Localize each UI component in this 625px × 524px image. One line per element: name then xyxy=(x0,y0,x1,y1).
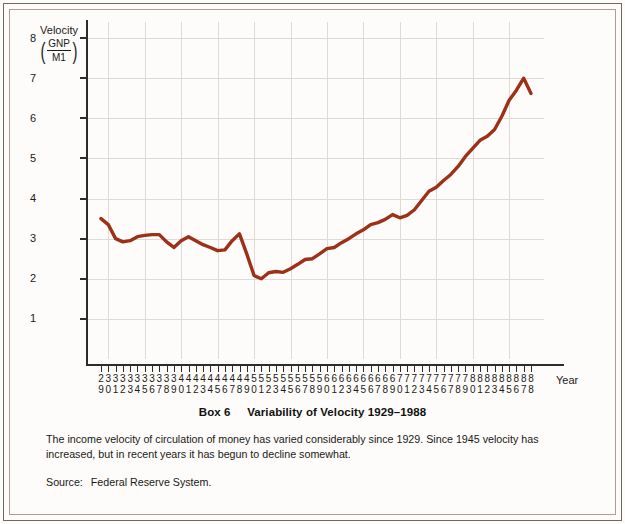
box-title-text: Variability of Velocity 1929–1988 xyxy=(247,406,426,418)
x-tick-mark-78 xyxy=(458,366,459,372)
plot-area xyxy=(88,22,544,359)
x-tick-mark-44 xyxy=(210,366,211,372)
x-tick-mark-85 xyxy=(509,366,510,372)
x-tick-mark-43 xyxy=(203,366,204,372)
y-tick-mark-8 xyxy=(80,37,87,39)
caption-block: Box 6 Variability of Velocity 1929–1988 … xyxy=(0,406,625,488)
source-line: Source: Federal Reserve System. xyxy=(46,476,625,488)
x-tick-mark-53 xyxy=(276,366,277,372)
y-tick-mark-1 xyxy=(80,318,87,320)
x-tick-mark-66 xyxy=(371,366,372,372)
x-tick-label-88: 88 xyxy=(526,373,536,395)
x-tick-mark-88 xyxy=(531,366,532,372)
y-tick-mark-5 xyxy=(80,157,87,159)
x-tick-mark-64 xyxy=(356,366,357,372)
y-tick-label-6: 6 xyxy=(10,113,36,124)
y-tick-label-2: 2 xyxy=(10,273,36,284)
x-axis-ticks xyxy=(88,366,544,373)
x-tick-mark-36 xyxy=(152,366,153,372)
x-tick-mark-49 xyxy=(247,366,248,372)
x-tick-mark-50 xyxy=(254,366,255,372)
x-tick-mark-55 xyxy=(291,366,292,372)
x-tick-mark-59 xyxy=(320,366,321,372)
x-tick-mark-76 xyxy=(444,366,445,372)
x-axis-title: Year xyxy=(556,374,578,386)
x-tick-mark-72 xyxy=(414,366,415,372)
x-tick-mark-77 xyxy=(451,366,452,372)
chart-container: Velocity ( GNP M1 ) 12345678 29303132333… xyxy=(0,0,625,410)
x-tick-mark-33 xyxy=(130,366,131,372)
y-axis-title: Velocity ( GNP M1 ) xyxy=(30,24,88,63)
x-tick-mark-87 xyxy=(524,366,525,372)
x-tick-mark-73 xyxy=(422,366,423,372)
x-tick-mark-57 xyxy=(305,366,306,372)
y-axis-line xyxy=(86,20,88,365)
x-tick-mark-81 xyxy=(480,366,481,372)
y-tick-mark-4 xyxy=(80,198,87,200)
caption-text: The income velocity of circulation of mo… xyxy=(46,432,581,461)
paren-close: ) xyxy=(72,41,77,61)
x-tick-mark-82 xyxy=(487,366,488,372)
y-tick-mark-7 xyxy=(80,77,87,79)
x-tick-mark-46 xyxy=(225,366,226,372)
x-tick-mark-47 xyxy=(232,366,233,372)
x-tick-mark-56 xyxy=(298,366,299,372)
x-tick-mark-62 xyxy=(342,366,343,372)
x-tick-mark-75 xyxy=(436,366,437,372)
x-tick-mark-48 xyxy=(240,366,241,372)
x-tick-mark-40 xyxy=(181,366,182,372)
y-tick-label-5: 5 xyxy=(10,153,36,164)
x-axis-labels: 2930313233343536373839404142434445464748… xyxy=(88,373,544,397)
figure-page: Velocity ( GNP M1 ) 12345678 29303132333… xyxy=(0,0,625,524)
x-tick-mark-58 xyxy=(312,366,313,372)
x-tick-mark-42 xyxy=(196,366,197,372)
x-tick-mark-34 xyxy=(137,366,138,372)
y-tick-mark-3 xyxy=(80,238,87,240)
fraction-numerator: GNP xyxy=(47,38,71,49)
x-tick-mark-70 xyxy=(400,366,401,372)
velocity-line-chart xyxy=(88,22,544,359)
x-tick-mark-30 xyxy=(108,366,109,372)
y-axis-fraction: ( GNP M1 ) xyxy=(39,38,79,63)
y-tick-label-7: 7 xyxy=(10,73,36,84)
y-tick-label-4: 4 xyxy=(10,193,36,204)
x-tick-mark-80 xyxy=(473,366,474,372)
x-tick-mark-71 xyxy=(407,366,408,372)
y-tick-label-8: 8 xyxy=(10,33,36,44)
x-tick-mark-61 xyxy=(334,366,335,372)
x-tick-mark-60 xyxy=(327,366,328,372)
box-title: Box 6 Variability of Velocity 1929–1988 xyxy=(0,406,625,418)
x-tick-mark-31 xyxy=(116,366,117,372)
x-tick-mark-45 xyxy=(218,366,219,372)
x-tick-mark-52 xyxy=(269,366,270,372)
x-tick-mark-51 xyxy=(261,366,262,372)
y-tick-label-3: 3 xyxy=(10,233,36,244)
velocity-series-line xyxy=(101,78,531,279)
x-tick-mark-63 xyxy=(349,366,350,372)
fraction-bar xyxy=(47,50,71,51)
x-tick-mark-83 xyxy=(495,366,496,372)
x-tick-mark-39 xyxy=(174,366,175,372)
x-tick-mark-79 xyxy=(465,366,466,372)
x-tick-mark-32 xyxy=(123,366,124,372)
source-value: Federal Reserve System. xyxy=(91,476,212,488)
box-number: Box 6 xyxy=(199,406,231,418)
x-tick-mark-65 xyxy=(363,366,364,372)
paren-open: ( xyxy=(41,41,46,61)
x-tick-mark-69 xyxy=(393,366,394,372)
x-tick-mark-67 xyxy=(378,366,379,372)
x-tick-mark-74 xyxy=(429,366,430,372)
x-tick-mark-54 xyxy=(283,366,284,372)
y-tick-mark-2 xyxy=(80,278,87,280)
y-tick-mark-6 xyxy=(80,117,87,119)
x-tick-mark-84 xyxy=(502,366,503,372)
x-tick-mark-41 xyxy=(189,366,190,372)
x-tick-mark-86 xyxy=(516,366,517,372)
x-tick-mark-68 xyxy=(385,366,386,372)
x-tick-mark-35 xyxy=(145,366,146,372)
x-tick-mark-38 xyxy=(167,366,168,372)
y-tick-label-1: 1 xyxy=(10,313,36,324)
source-label: Source: xyxy=(46,476,83,488)
fraction-denominator: M1 xyxy=(47,52,71,63)
y-axis-title-main: Velocity xyxy=(40,24,78,36)
